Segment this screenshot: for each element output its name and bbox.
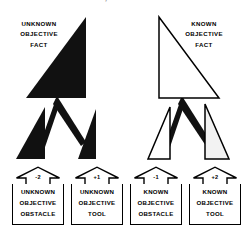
node-label-line: KNOWN [191,187,239,198]
node-label-line: KNOWN [132,187,180,198]
node-value: +2 [189,174,241,180]
node-known-objective-tool[interactable]: +2 KNOWN OBJECTIVE TOOL [189,166,241,225]
node-label-line: OBJECTIVE [132,198,180,209]
known-objective-obstacle-triangle [148,107,170,159]
arrow-head-unknown-objective-tool: +1 [71,166,123,185]
arrow-head-known-objective-tool: +2 [189,166,241,185]
known-objective-tool-triangle [205,104,229,159]
arrow-head-known-objective-obstacle: -1 [130,166,182,185]
node-label-line: TOOL [191,209,239,220]
node-value: -1 [130,174,182,180]
node-label-line: OBJECTIVE [73,198,121,209]
unknown-branch-connectors [38,96,86,150]
node-unknown-objective-tool[interactable]: +1 UNKNOWN OBJECTIVE TOOL [71,166,123,225]
node-label-line: TOOL [73,209,121,220]
known-objective-fact-triangle [159,17,219,98]
node-known-objective-obstacle[interactable]: -1 KNOWN OBJECTIVE OBSTACLE [130,166,182,225]
node-label-box: KNOWN OBJECTIVE TOOL [189,184,241,225]
node-label-line: OBJECTIVE [191,198,239,209]
node-label-box: KNOWN OBJECTIVE OBSTACLE [130,184,182,225]
unknown-objective-fact-triangle [26,17,86,98]
diagram-canvas: OBJECTIVE FACTS, OBSTACLES AND TOOLS UNK… [0,0,248,238]
node-value: +1 [71,174,123,180]
unknown-objective-obstacle-triangle [16,107,45,159]
node-label-box: UNKNOWN OBJECTIVE OBSTACLE [12,184,64,225]
arrow-head-unknown-objective-obstacle: -2 [12,166,64,185]
node-label-line: OBJECTIVE [14,198,62,209]
node-unknown-objective-obstacle[interactable]: -2 UNKNOWN OBJECTIVE OBSTACLE [12,166,64,225]
node-value: -2 [12,174,64,180]
node-label-box: UNKNOWN OBJECTIVE TOOL [71,184,123,225]
node-label-line: OBSTACLE [14,209,62,220]
node-label-line: UNKNOWN [14,187,62,198]
node-label-line: UNKNOWN [73,187,121,198]
node-label-line: OBSTACLE [132,209,180,220]
